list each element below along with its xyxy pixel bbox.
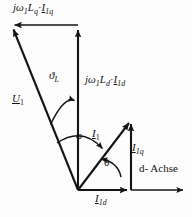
label-current-i1q: I1q	[132, 142, 144, 156]
theta-symbol: θ	[104, 156, 109, 168]
phasor-diagram-canvas	[0, 0, 192, 217]
label-jw1lq-i1q: jω1Lq·I1q	[13, 2, 53, 16]
u-symbol: U	[12, 92, 20, 104]
label-jw1ld-i1d: jω1Ld·I1d	[85, 74, 125, 88]
i-sub: 1q	[136, 147, 144, 156]
phi-symbol: φ	[76, 129, 82, 141]
label-phi-angle: φ	[76, 130, 82, 141]
label-omega: ω	[16, 1, 24, 13]
label-omega: ω	[88, 73, 96, 85]
vector-u1	[14, 30, 79, 191]
label-I-sub: 1q	[45, 7, 53, 16]
label-current-i1: I1	[92, 128, 100, 142]
i-sub: 1	[96, 133, 100, 142]
arc-vartheta-l	[51, 100, 75, 125]
i-sub: 1d	[99, 198, 107, 207]
label-theta-angle: θ	[104, 157, 109, 168]
label-I-sub: 1d	[117, 79, 125, 88]
label-load-angle: ϑL	[49, 70, 59, 84]
u-sub: 1	[20, 98, 24, 107]
label-voltage-u1: U1	[12, 93, 24, 107]
vartheta-sub: L	[54, 75, 58, 84]
label-d-axis: d- Achse	[139, 163, 178, 174]
label-current-i1d: I1d	[95, 193, 107, 207]
phasor-diagram-figure: jω1Lq·I1q jω1Ld·I1d ϑL U1 φ I1 I1q θ d- …	[0, 0, 192, 217]
